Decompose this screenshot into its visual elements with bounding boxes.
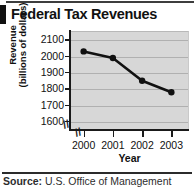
x-axis-title: Year <box>71 152 188 164</box>
x-axis-tick <box>142 131 144 137</box>
y-axis-tick-label: 2100 <box>30 34 64 44</box>
source-value: U.S. Office of Management <box>45 175 171 187</box>
x-axis-tick <box>84 131 86 137</box>
source-note: Source: U.S. Office of Management <box>3 175 171 187</box>
y-axis-tick <box>65 88 70 90</box>
plot-area <box>71 31 189 130</box>
gridline <box>71 106 188 107</box>
gridline <box>71 40 188 41</box>
y-axis-line <box>69 30 71 131</box>
x-axis-tick-label: 2000 <box>69 139 99 151</box>
gridline <box>71 57 188 58</box>
y-axis-labels: 210020001900180017001600 <box>28 0 64 187</box>
chart-figure: Federal Tax Revenues Revenue (billions o… <box>0 0 194 187</box>
x-axis-tick-label: 2002 <box>127 139 157 151</box>
gridline <box>71 89 188 90</box>
x-axis-tick <box>113 131 115 137</box>
x-axis-tick-label: 2001 <box>98 139 128 151</box>
source-label: Source: <box>3 175 42 187</box>
y-axis-tick <box>65 39 70 41</box>
footer-divider <box>2 172 192 174</box>
y-axis-tick-label: 1600 <box>30 116 64 126</box>
gridline <box>71 73 188 74</box>
y-axis-tick <box>65 105 70 107</box>
y-axis-tick <box>65 72 70 74</box>
y-axis-tick-label: 1900 <box>30 67 64 77</box>
x-axis-tick-label: 2003 <box>156 139 186 151</box>
y-axis-tick-label: 1800 <box>30 83 64 93</box>
y-axis-tick-label: 1700 <box>30 100 64 110</box>
x-axis-tick <box>171 131 173 137</box>
y-axis-tick <box>65 56 70 58</box>
gridline <box>71 122 188 123</box>
y-axis-title-line2: (billions of dollars) <box>18 3 28 88</box>
y-axis-tick-label: 2000 <box>30 51 64 61</box>
